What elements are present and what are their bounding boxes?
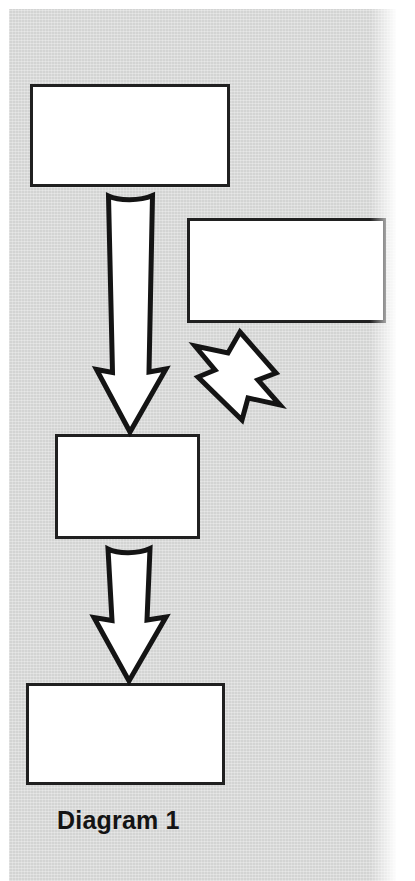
down-arrow-icon-2 (88, 544, 172, 686)
flowchart-box-1[interactable] (30, 84, 230, 187)
diagonal-down-left-arrow-icon (188, 326, 286, 434)
down-arrow-icon-1 (92, 192, 172, 436)
diagram-caption: Diagram 1 (57, 806, 180, 835)
flowchart-box-3[interactable] (55, 434, 200, 539)
diagram-page: Diagram 1 (0, 0, 415, 881)
flowchart-box-4[interactable] (26, 683, 225, 785)
flowchart-box-2[interactable] (187, 218, 386, 323)
